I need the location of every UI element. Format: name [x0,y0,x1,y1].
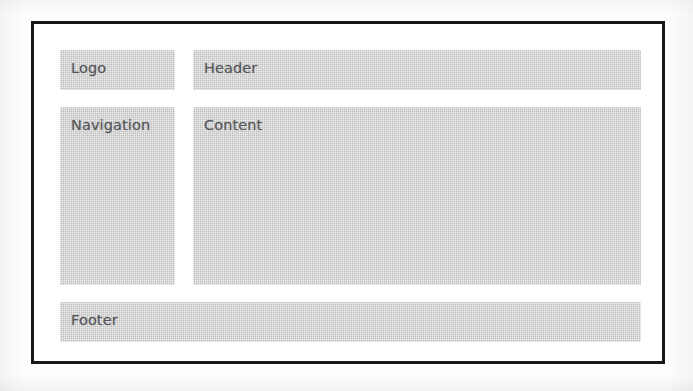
wireframe-label-header: Header [204,59,257,77]
wireframe-label-footer: Footer [71,311,118,329]
wireframe-block-content[interactable]: Content [193,107,641,285]
wireframe-figure-frame: Logo Header Navigation Content Footer [31,21,665,364]
wireframe-label-logo: Logo [71,59,106,77]
wireframe-block-header[interactable]: Header [193,50,641,90]
scanned-page-background: Logo Header Navigation Content Footer [0,0,693,391]
wireframe-block-logo[interactable]: Logo [60,50,175,90]
wireframe-label-content: Content [204,116,262,134]
wireframe-block-navigation[interactable]: Navigation [60,107,175,285]
wireframe-canvas: Logo Header Navigation Content Footer [34,24,662,361]
wireframe-label-navigation: Navigation [71,116,150,134]
wireframe-block-footer[interactable]: Footer [60,302,641,342]
